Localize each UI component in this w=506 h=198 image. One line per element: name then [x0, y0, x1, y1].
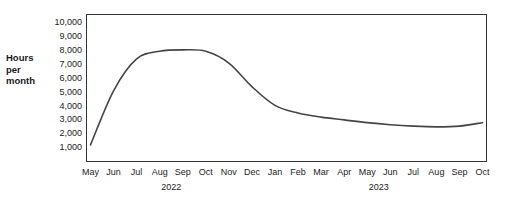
plot-area	[0, 0, 506, 198]
plot-border	[87, 15, 487, 162]
chart-figure: Hours per month 10,0009,0008,0007,0006,0…	[0, 0, 506, 198]
